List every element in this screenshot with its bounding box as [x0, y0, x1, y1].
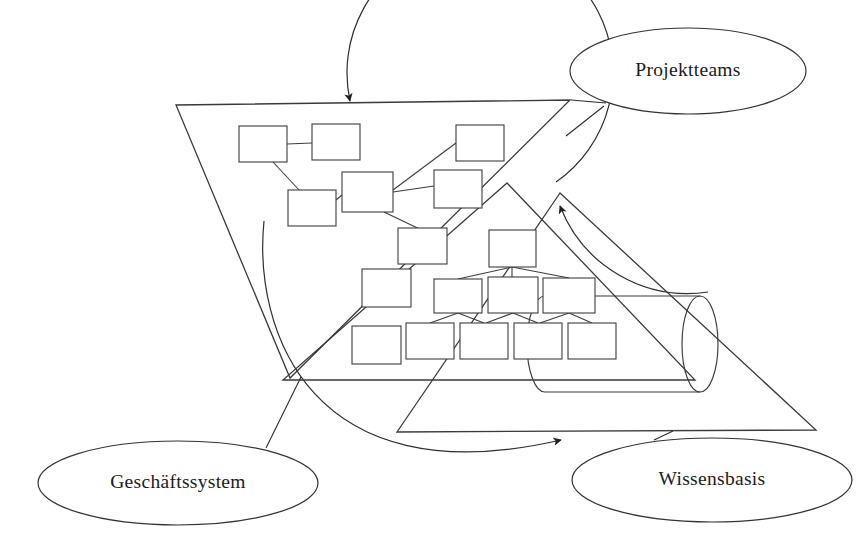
network-box: [434, 170, 482, 208]
wissensbasis-connector: [654, 431, 673, 440]
projektteams-connector-lower: [566, 106, 604, 136]
hierarchy-box-mid: [434, 279, 482, 313]
label-ellipse-wissensbasis[interactable]: Wissensbasis: [572, 438, 852, 522]
network-box: [352, 326, 401, 364]
label-ellipse-projektteams[interactable]: Projektteams: [570, 28, 806, 114]
geschaeftssystem-label: Geschäftssystem: [110, 471, 246, 492]
hierarchy-box-bottom: [460, 323, 508, 359]
hierarchy-box-bottom: [406, 323, 454, 359]
projektteams-label: Projektteams: [635, 59, 740, 80]
network-box: [342, 172, 393, 212]
network-box: [456, 125, 504, 161]
geschaeftssystem-connector: [266, 377, 301, 448]
hierarchy-box-mid: [488, 277, 538, 313]
network-box: [312, 124, 360, 160]
hierarchy-box-bottom: [514, 323, 562, 359]
wissensbasis-label: Wissensbasis: [659, 468, 766, 489]
hierarchy-box-mid: [543, 278, 595, 313]
network-box: [288, 190, 336, 226]
hierarchy-box-bottom: [568, 323, 616, 359]
diagram-svg: Projektteams Geschäftssystem Wissensbasi…: [0, 0, 856, 544]
network-box: [239, 126, 287, 162]
network-box: [398, 228, 447, 264]
label-ellipse-geschaeftssystem[interactable]: Geschäftssystem: [38, 441, 318, 525]
diagram-canvas: Projektteams Geschäftssystem Wissensbasi…: [0, 0, 856, 544]
network-box: [362, 269, 411, 307]
hierarchy-box-top: [489, 230, 536, 267]
